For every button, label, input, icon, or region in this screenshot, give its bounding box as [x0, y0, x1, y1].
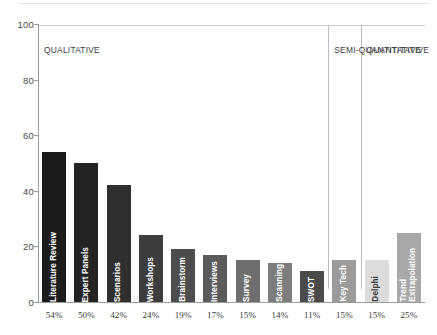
data-label-expert-panels: 50% [70, 310, 102, 320]
y-tick-100 [34, 24, 39, 25]
bar-label-wrap: Brainstorm [171, 249, 195, 302]
bar-label: Expert Panels [82, 244, 91, 302]
y-tick-label-80: 80 [8, 75, 34, 86]
bar-swot[interactable]: SWOT [300, 271, 324, 302]
bar-label: Brainstorm [179, 254, 188, 302]
y-tick-label-40: 40 [8, 186, 34, 197]
plot-area: Literature ReviewExpert PanelsScenariosW… [38, 25, 425, 303]
bar-label: Literature Review [50, 229, 59, 302]
bar-brainstorm[interactable]: Brainstorm [171, 249, 195, 302]
bar-label-wrap: TrendExtrapolation [397, 233, 421, 303]
bar-key-tech[interactable]: Key Tech [332, 260, 356, 302]
y-tick-label-100: 100 [8, 19, 34, 30]
y-tick-60 [34, 135, 39, 136]
bar-trend-extrapolation[interactable]: TrendExtrapolation [397, 233, 421, 303]
data-label-literature-review: 54% [38, 310, 70, 320]
group-separator-2 [361, 25, 362, 289]
bar-scanning[interactable]: Scanning [268, 263, 292, 302]
group-label-quantitative: QUANTITATIVE [367, 45, 430, 55]
bar-label-wrap: Workshops [139, 235, 163, 302]
data-label-key-tech: 15% [328, 310, 360, 320]
bar-label: Survey [243, 271, 252, 302]
bar-label: Key Tech [340, 262, 349, 302]
data-label-workshops: 24% [135, 310, 167, 320]
bar-label: Scenarios [114, 259, 123, 302]
bar-label: Workshops [147, 254, 156, 302]
y-tick-label-20: 20 [8, 241, 34, 252]
data-label-scanning: 14% [264, 310, 296, 320]
y-tick-0 [34, 302, 39, 303]
plot-top-border [38, 25, 425, 26]
bar-label: Delphi [372, 273, 381, 302]
bar-expert-panels[interactable]: Expert Panels [74, 163, 98, 302]
bar-label-wrap: Key Tech [332, 260, 356, 302]
bar-label-wrap: SWOT [300, 271, 324, 302]
data-label-swot: 11% [296, 310, 328, 320]
bar-label-wrap: Interviews [203, 255, 227, 302]
bar-label-wrap: Literature Review [42, 152, 66, 302]
bar-label-wrap: Scenarios [107, 185, 131, 302]
data-label-brainstorm: 19% [167, 310, 199, 320]
y-axis-line [38, 25, 39, 303]
bar-label: Scanning [276, 261, 285, 302]
bar-chart: Literature ReviewExpert PanelsScenariosW… [0, 0, 437, 335]
bar-scenarios[interactable]: Scenarios [107, 185, 131, 302]
bar-workshops[interactable]: Workshops [139, 235, 163, 302]
data-label-delphi: 15% [361, 310, 393, 320]
bar-label: TrendExtrapolation [400, 245, 417, 302]
data-label-survey: 15% [232, 310, 264, 320]
x-axis-line [38, 302, 425, 303]
data-label-interviews: 17% [199, 310, 231, 320]
group-separator-1 [328, 25, 329, 289]
bar-delphi[interactable]: Delphi [365, 260, 389, 302]
bar-interviews[interactable]: Interviews [203, 255, 227, 302]
y-tick-label-0: 0 [8, 297, 34, 308]
bar-survey[interactable]: Survey [236, 260, 260, 302]
bar-label: SWOT [308, 274, 317, 302]
group-label-qualitative: QUALITATIVE [44, 45, 100, 55]
bar-label: Interviews [211, 258, 220, 302]
data-label-trend-extrapolation: 25% [393, 310, 425, 320]
data-label-scenarios: 42% [103, 310, 135, 320]
bar-label-wrap: Scanning [268, 263, 292, 302]
y-tick-40 [34, 191, 39, 192]
bar-label-wrap: Survey [236, 260, 260, 302]
bar-literature-review[interactable]: Literature Review [42, 152, 66, 302]
bar-label-wrap: Expert Panels [74, 163, 98, 302]
y-tick-label-60: 60 [8, 130, 34, 141]
y-tick-80 [34, 80, 39, 81]
y-tick-20 [34, 246, 39, 247]
bar-label-wrap: Delphi [365, 260, 389, 302]
